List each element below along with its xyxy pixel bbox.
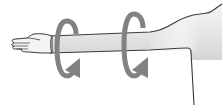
diagram-canvas [0, 0, 223, 112]
hand-icon [12, 34, 52, 53]
arm-icon [50, 4, 222, 105]
arm-circles-diagram: Arm circles [0, 0, 223, 112]
